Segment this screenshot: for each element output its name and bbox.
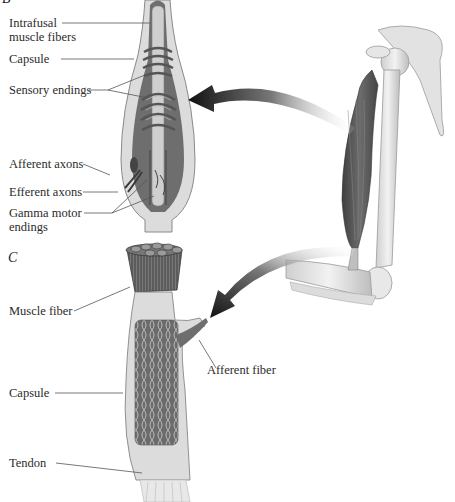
label-efferent-axons: Efferent axons (9, 185, 82, 199)
label-intrafusal-line2: muscle fibers (9, 30, 76, 44)
label-sensory-endings: Sensory endings (9, 83, 91, 97)
golgi-tendon-organ-illustration (125, 243, 208, 502)
label-muscle-fiber: Muscle fiber (9, 304, 73, 318)
label-afferent-fiber: Afferent fiber (207, 363, 276, 377)
label-intrafusal-line1: Intrafusal (9, 16, 57, 30)
diagram-canvas (0, 0, 455, 502)
label-gamma-motor-line1: Gamma motor (9, 206, 82, 220)
panel-c-letter: C (8, 250, 17, 266)
panel-b-letter: B (2, 0, 11, 7)
label-tendon: Tendon (9, 456, 46, 470)
muscle-spindle-illustration (121, 0, 195, 232)
label-capsule-tendon-organ: Capsule (9, 386, 49, 400)
arm-illustration (286, 26, 444, 305)
spindle-callout-arrow (188, 85, 355, 134)
label-capsule-spindle: Capsule (9, 52, 49, 66)
label-gamma-motor-line2: endings (9, 220, 48, 234)
label-afferent-axons: Afferent axons (9, 157, 83, 171)
